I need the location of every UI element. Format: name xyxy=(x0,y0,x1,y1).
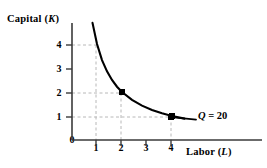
data-point-1-4 xyxy=(119,89,125,95)
isoquant-figure: Capital (K) Labor (L) Q = 20 0 1 2 3 4 1… xyxy=(0,0,267,168)
data-point-4-1 xyxy=(168,114,174,120)
plot-canvas xyxy=(0,0,267,168)
axis-lines xyxy=(72,23,262,140)
isoquant-curve xyxy=(93,23,185,119)
isoquant-leader-line xyxy=(174,117,196,119)
axis-ticks xyxy=(66,45,171,146)
